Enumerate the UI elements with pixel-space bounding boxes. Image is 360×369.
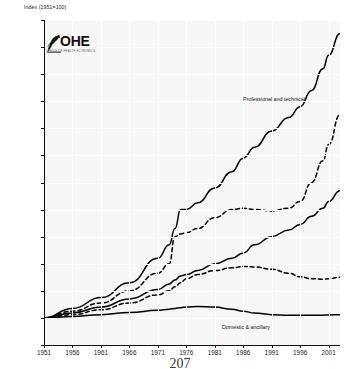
x-axis-tick — [272, 345, 273, 348]
y-axis-tick — [41, 318, 44, 319]
x-axis-tick-label: 1971 — [143, 349, 173, 356]
y-axis-tick — [41, 101, 44, 102]
x-axis-tick — [72, 345, 73, 348]
gridline-horizontal — [44, 74, 340, 75]
x-axis-tick-label: 1981 — [200, 349, 230, 356]
gridline-vertical — [158, 20, 159, 345]
x-axis-tick — [243, 345, 244, 348]
x-axis-line — [44, 345, 340, 346]
x-axis-tick — [129, 345, 130, 348]
x-axis-tick — [44, 345, 45, 348]
chart-page: Index (1951=100) 01002003004005006007008… — [0, 0, 360, 369]
y-axis-tick — [41, 155, 44, 156]
gridline-vertical — [272, 20, 273, 345]
y-axis-tick — [41, 210, 44, 211]
y-axis-tick — [41, 74, 44, 75]
x-axis-tick — [186, 345, 187, 348]
gridline-vertical — [300, 20, 301, 345]
gridline-horizontal — [44, 291, 340, 292]
x-axis-tick-label: 1976 — [171, 349, 201, 356]
gridline-horizontal — [44, 128, 340, 129]
plot-area — [44, 20, 340, 345]
y-axis-tick — [41, 47, 44, 48]
x-axis-tick — [158, 345, 159, 348]
x-axis-tick — [101, 345, 102, 348]
series-label-domestic-and-ancillary: Domestic & ancillary — [222, 324, 270, 330]
x-axis-tick — [300, 345, 301, 348]
y-axis-tick — [41, 183, 44, 184]
gridline-vertical — [129, 20, 130, 345]
x-axis-tick — [329, 345, 330, 348]
gridline-vertical — [215, 20, 216, 345]
y-axis-tick — [41, 264, 44, 265]
gridline-vertical — [186, 20, 187, 345]
y-axis-tick — [41, 20, 44, 21]
gridlines — [44, 20, 340, 345]
gridline-vertical — [101, 20, 102, 345]
y-axis-tick — [41, 291, 44, 292]
gridline-horizontal — [44, 264, 340, 265]
gridline-horizontal — [44, 155, 340, 156]
x-axis-tick — [215, 345, 216, 348]
gridline-horizontal — [44, 210, 340, 211]
gridline-horizontal — [44, 183, 340, 184]
ohe-logo: OHE OFFICE OF HEALTH ECONOMICS — [45, 33, 107, 59]
y-axis-tick — [41, 128, 44, 129]
x-axis-tick-label: 1951 — [29, 349, 59, 356]
y-axis-tick — [41, 237, 44, 238]
gridline-vertical — [329, 20, 330, 345]
gridline-horizontal — [44, 237, 340, 238]
x-axis-tick-label: 1996 — [285, 349, 315, 356]
gridline-horizontal — [44, 318, 340, 319]
y-axis-line — [44, 20, 45, 345]
y-axis-title: Index (1951=100) — [24, 4, 66, 10]
x-axis-tick-label: 2001 — [314, 349, 344, 356]
x-axis-tick-label: 1966 — [114, 349, 144, 356]
x-axis-tick-label: 1961 — [86, 349, 116, 356]
gridline-vertical — [72, 20, 73, 345]
ohe-logo-wordmark: OHE — [60, 34, 90, 48]
x-axis-tick-label: 1991 — [257, 349, 287, 356]
gridline-horizontal — [44, 20, 340, 21]
x-axis-tick-label: 1956 — [57, 349, 87, 356]
x-axis-tick-label: 1986 — [228, 349, 258, 356]
page-number: 207 — [0, 356, 360, 369]
series-label-professional-and-technical: Professional and technical — [243, 96, 305, 102]
ohe-logo-subtitle: OFFICE OF HEALTH ECONOMICS — [46, 50, 95, 53]
gridline-vertical — [243, 20, 244, 345]
